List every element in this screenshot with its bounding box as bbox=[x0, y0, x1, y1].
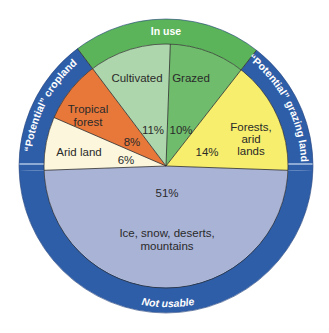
pct-forests: 14% bbox=[195, 146, 218, 158]
label-forests-3: lands bbox=[237, 145, 265, 157]
land-use-pie-chart: In use “Potential” cropland “Potential” … bbox=[0, 0, 329, 333]
label-tropical-forest-2: forest bbox=[74, 116, 104, 128]
label-arid-land: Arid land bbox=[56, 146, 101, 158]
label-tropical-forest-1: Tropical bbox=[68, 103, 108, 115]
pct-arid-land: 6% bbox=[118, 154, 135, 166]
ring-label-in-use: In use bbox=[151, 25, 182, 37]
pct-cultivated: 11% bbox=[142, 124, 164, 136]
label-not-usable-2: mountains bbox=[140, 240, 193, 252]
label-grazed: Grazed bbox=[172, 72, 210, 84]
label-forests-2: arid bbox=[241, 133, 260, 145]
pct-grazed: 10% bbox=[169, 124, 192, 136]
pct-tropical-forest: 8% bbox=[124, 136, 141, 148]
label-forests-1: Forests, bbox=[230, 121, 272, 133]
pct-not-usable: 51% bbox=[155, 187, 178, 199]
label-cultivated: Cultivated bbox=[111, 72, 162, 84]
label-not-usable-1: Ice, snow, deserts, bbox=[119, 227, 214, 239]
